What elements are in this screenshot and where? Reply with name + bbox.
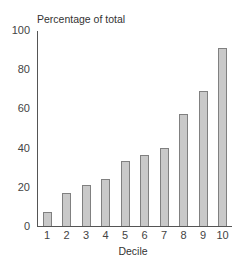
- x-tick-label: 4: [96, 229, 116, 241]
- y-tick-label: 0: [24, 220, 30, 232]
- y-axis-line: [37, 31, 38, 227]
- y-tick-label: 80: [18, 63, 30, 75]
- bar-decile-2: [62, 193, 71, 226]
- x-tick-label: 10: [213, 229, 233, 241]
- bar-decile-1: [43, 212, 52, 226]
- y-tick-label: 100: [12, 24, 30, 36]
- bar-decile-7: [160, 148, 169, 226]
- x-tick-label: 8: [174, 229, 194, 241]
- bar-decile-4: [101, 179, 110, 226]
- bar-decile-3: [82, 185, 91, 226]
- y-axis-title: Percentage of total: [37, 13, 125, 25]
- bar-decile-6: [140, 155, 149, 226]
- bar-decile-5: [121, 161, 130, 226]
- x-tick-label: 7: [154, 229, 174, 241]
- bar-decile-10: [218, 48, 227, 226]
- x-tick-label: 6: [135, 229, 155, 241]
- bar-chart: Percentage of total 020406080100 1234567…: [0, 0, 243, 268]
- x-tick-label: 9: [193, 229, 213, 241]
- y-tick-label: 20: [18, 181, 30, 193]
- bar-decile-9: [199, 91, 208, 226]
- x-tick-label: 5: [115, 229, 135, 241]
- bar-decile-8: [179, 114, 188, 226]
- y-tick-label: 40: [18, 142, 30, 154]
- y-tick-label: 60: [18, 102, 30, 114]
- x-tick-label: 3: [76, 229, 96, 241]
- x-axis-title: Decile: [118, 245, 147, 257]
- x-tick-label: 2: [57, 229, 77, 241]
- x-axis-line: [37, 226, 232, 227]
- x-tick-label: 1: [37, 229, 57, 241]
